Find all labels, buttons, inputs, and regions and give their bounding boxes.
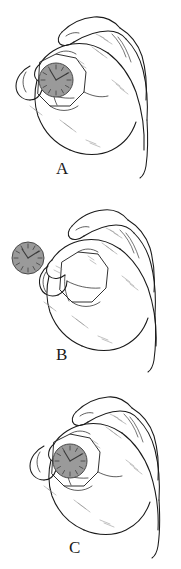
little-finger-hint [130, 417, 143, 442]
palm-bottom-contour [70, 122, 136, 155]
panel-b-drawing [0, 190, 181, 380]
clock-face-disc-b [12, 242, 44, 274]
grip-facet-right [98, 472, 122, 477]
grip-facet-top [78, 249, 98, 252]
thumb-nail-crease [37, 452, 40, 472]
hand-dorsum-lower [122, 433, 158, 530]
wrist-outer-edge [148, 314, 156, 372]
hand-dorsum-upper [120, 28, 146, 100]
panel-b: B [0, 190, 181, 380]
panel-a-drawing [0, 0, 181, 190]
index-finger-lower-edge [88, 411, 138, 422]
middle-finger-top-edge [52, 239, 120, 260]
grip-facet-top [70, 431, 90, 434]
hand-dorsum-mid [138, 419, 159, 500]
index-knuckle-crease [76, 227, 89, 230]
index-fingertip [72, 412, 88, 425]
shading-hatching [44, 228, 138, 343]
little-finger-hint [118, 37, 131, 62]
grip-facet-right [84, 92, 108, 97]
thumb-index-web [67, 281, 100, 288]
index-finger-lower-edge [84, 225, 134, 236]
hand-dorsum-mid [126, 39, 147, 120]
index-finger-top-edge [62, 17, 120, 32]
thumb-nail-crease [23, 72, 26, 92]
middle-finger-top-edge [40, 43, 108, 64]
palm-bottom-contour [82, 318, 148, 351]
palm-bottom-contour [84, 502, 150, 535]
grip-facet-outline [60, 252, 108, 302]
hand-dorsum-lower [108, 53, 144, 150]
panel-label-a: A [56, 160, 69, 177]
index-finger-top-edge [76, 397, 132, 412]
index-knuckle-crease [80, 413, 93, 416]
middle-finger-top-edge [54, 423, 122, 444]
index-finger-lower-edge [74, 31, 126, 42]
panel-label-c: C [69, 539, 81, 556]
panel-a: A [0, 0, 181, 190]
grip-facet-bottom [50, 106, 78, 111]
thumb-tip-edge [30, 90, 42, 100]
index-finger-top-edge [72, 210, 128, 226]
panel-c-drawing [0, 380, 181, 569]
index-knuckle-crease [66, 33, 79, 36]
index-fingertip [58, 32, 74, 45]
grip-facet-bottom [64, 486, 92, 491]
figure-root: A [0, 0, 181, 569]
index-fingertip [68, 226, 84, 239]
panel-c: C [0, 380, 181, 569]
thumb-nail-crease [43, 272, 46, 292]
grip-facet-top [56, 51, 76, 54]
clock-face-disc-a [39, 63, 73, 97]
grip-facet-bottom [72, 302, 100, 307]
thumb-tip-edge [44, 470, 56, 480]
clock-face-disc-c [53, 444, 87, 478]
panel-label-b: B [56, 346, 68, 363]
palm-lower-contour [47, 276, 82, 346]
